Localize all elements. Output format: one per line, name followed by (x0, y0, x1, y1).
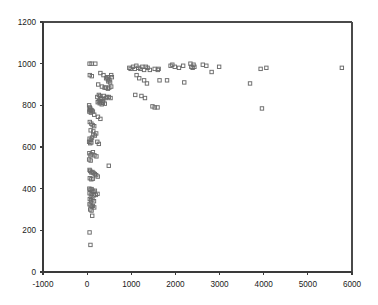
data-point-marker (217, 65, 220, 68)
data-point-marker (177, 66, 180, 69)
scatter-plot-figure: 020040060080010001200 -10000100020003000… (0, 0, 378, 305)
x-tick-label: 1000 (122, 280, 141, 289)
x-axis-ticks: -10000100020003000400050006000 (33, 272, 362, 289)
y-axis-ticks: 020040060080010001200 (18, 18, 43, 277)
y-tick-label: 800 (22, 101, 36, 110)
data-point-marker (96, 83, 99, 86)
data-point-marker (158, 79, 161, 82)
y-tick-label: 1200 (18, 18, 37, 27)
data-point-marker (89, 243, 92, 246)
x-tick-label: 0 (85, 280, 90, 289)
x-tick-label: 6000 (343, 280, 362, 289)
y-tick-label: 1000 (18, 60, 37, 69)
data-point-marker (91, 214, 94, 217)
data-point-marker (181, 64, 184, 67)
data-point-marker (143, 96, 146, 99)
y-tick-label: 0 (31, 268, 36, 277)
data-point-marker (165, 79, 168, 82)
x-tick-label: 2000 (166, 280, 185, 289)
data-point-marker (259, 67, 262, 70)
data-point-marker (151, 105, 154, 108)
plot-canvas: 020040060080010001200 -10000100020003000… (0, 0, 378, 305)
data-point-marker (248, 82, 251, 85)
data-point-group (87, 62, 343, 247)
data-point-marker (88, 231, 91, 234)
x-tick-label: -1000 (33, 280, 54, 289)
y-tick-label: 600 (22, 143, 36, 152)
data-point-marker (340, 66, 343, 69)
data-point-marker (94, 62, 97, 65)
data-point-marker (183, 81, 186, 84)
y-tick-label: 400 (22, 185, 36, 194)
data-point-marker (134, 93, 137, 96)
data-point-marker (107, 164, 110, 167)
x-tick-label: 3000 (210, 280, 229, 289)
data-point-marker (210, 70, 213, 73)
data-point-marker (140, 94, 143, 97)
x-tick-label: 5000 (299, 280, 318, 289)
data-point-marker (201, 63, 204, 66)
x-tick-label: 4000 (255, 280, 274, 289)
y-tick-label: 200 (22, 226, 36, 235)
data-point-marker (205, 64, 208, 67)
data-point-marker (265, 66, 268, 69)
data-point-marker (260, 107, 263, 110)
